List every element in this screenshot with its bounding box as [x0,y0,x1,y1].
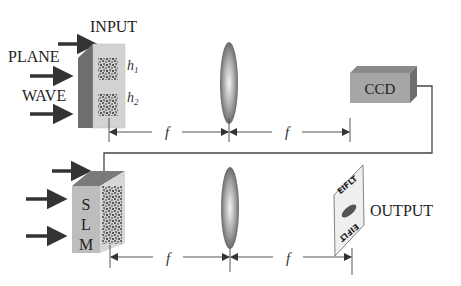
focal-length-label: f [285,124,291,140]
input-label: INPUT [90,18,137,35]
hologram-h2 [98,94,118,116]
output-plane: EIFLT EIFLT [334,165,364,256]
focal-length-label: f [165,124,171,140]
focal-length-label: f [166,250,172,266]
plane-label: PLANE [8,48,60,65]
ccd-label: CCD [365,81,396,97]
optical-correlator-diagram: INPUT PLANE WAVE h1 h2 CCD f f [0,0,461,286]
h2-label: h2 [127,90,139,107]
focal-dimension-top: f f [109,118,350,142]
input-box-side [78,44,93,128]
focal-dimension-bottom: f f [110,245,352,275]
hologram-h1 [98,58,118,80]
slm-pattern [102,186,122,244]
lens-bottom [221,167,239,249]
focal-length-label: f [286,250,292,266]
wave-label: WAVE [22,87,66,104]
output-label: OUTPUT [370,202,433,219]
slm-label-m: M [79,236,93,253]
slm-label-l: L [81,216,91,233]
ccd-top [350,66,417,73]
input-plane-box [78,44,125,128]
slm-box: S L M [72,171,125,253]
lens-top [220,42,238,124]
slm-label-s: S [82,196,91,213]
h1-label: h1 [127,58,139,75]
ccd-camera: CCD [350,66,417,103]
